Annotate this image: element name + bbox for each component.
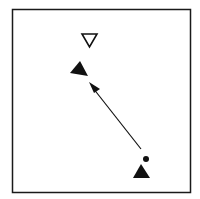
upper-filled-triangle-icon: [70, 61, 88, 76]
marker-dot-icon: [143, 156, 149, 162]
movement-arrow: [89, 82, 141, 149]
arrowhead-icon: [89, 82, 100, 93]
open-inverted-triangle-icon: [82, 34, 97, 47]
diagram-canvas: [0, 0, 200, 199]
lower-filled-triangle-icon: [133, 164, 150, 178]
frame-border: [13, 10, 191, 193]
